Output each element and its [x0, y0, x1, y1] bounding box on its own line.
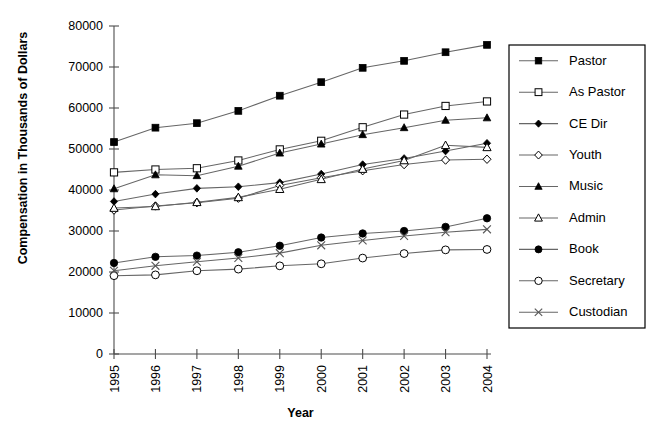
data-point-marker [276, 262, 284, 270]
legend: PastorAs PastorCE DirYouthMusicAdminBook… [509, 45, 645, 328]
y-axis-title: Compensation in Thousands of Dollars [16, 32, 30, 265]
legend-item-label: Music [569, 178, 603, 193]
y-axis-tick-label: 70000 [68, 60, 103, 74]
y-axis-tick-label: 60000 [68, 101, 103, 115]
data-point-marker [442, 156, 450, 164]
series-admin [110, 141, 491, 211]
x-axis-tick-label: 1995 [108, 365, 122, 393]
data-point-marker [193, 185, 200, 193]
x-axis-tick-label: 2003 [439, 365, 453, 393]
data-point-marker [535, 57, 541, 63]
line-chart: 0100002000030000400005000060000700008000… [0, 0, 660, 429]
data-point-marker [442, 102, 449, 109]
legend-item-label: As Pastor [569, 84, 626, 99]
data-point-marker [400, 250, 408, 258]
data-point-marker [535, 246, 542, 253]
data-point-marker [317, 260, 325, 268]
data-point-marker [401, 57, 408, 64]
y-axis-tick-label: 50000 [68, 142, 103, 156]
axes-group: 0100002000030000400005000060000700008000… [16, 19, 495, 420]
data-point-marker [110, 259, 117, 266]
data-point-marker [535, 89, 542, 96]
series-line [114, 145, 487, 208]
x-axis-tick-label: 1998 [232, 365, 246, 393]
y-axis-tick-label: 20000 [68, 265, 103, 279]
data-point-marker [111, 139, 118, 146]
legend-item-label: Youth [569, 147, 602, 162]
series-line [114, 45, 487, 142]
series-group [110, 41, 491, 279]
y-axis-tick-label: 80000 [68, 19, 103, 33]
data-point-marker [152, 271, 160, 279]
legend-item-label: Book [569, 241, 599, 256]
data-point-marker [318, 79, 325, 86]
data-point-marker [152, 253, 159, 260]
data-point-marker [401, 111, 408, 118]
series-pastor [111, 41, 491, 145]
data-point-marker [483, 114, 491, 121]
data-point-marker [276, 242, 283, 249]
data-point-marker [442, 246, 450, 254]
data-point-marker [359, 124, 366, 131]
legend-item-label: Secretary [569, 273, 625, 288]
x-axis-tick-label: 2004 [481, 365, 495, 393]
legend-item-label: CE Dir [569, 116, 608, 131]
legend-item-label: Custodian [569, 304, 628, 319]
data-point-marker [193, 252, 200, 259]
series-book [110, 215, 490, 267]
data-point-marker [483, 246, 491, 254]
y-axis-tick-label: 0 [96, 347, 103, 361]
data-point-marker [193, 165, 200, 172]
data-point-marker [235, 107, 242, 114]
data-point-marker [535, 277, 542, 284]
chart-container: 0100002000030000400005000060000700008000… [0, 0, 660, 429]
data-point-marker [484, 41, 491, 48]
series-as-pastor [110, 98, 490, 176]
data-point-marker [483, 98, 490, 105]
legend-item-label: Pastor [569, 53, 607, 68]
series-line [114, 218, 487, 263]
x-axis-tick-label: 1999 [273, 365, 287, 393]
data-point-marker [442, 49, 449, 56]
data-point-marker [234, 265, 242, 273]
y-axis-tick-label: 10000 [68, 306, 103, 320]
series-line [114, 143, 487, 201]
data-point-marker [235, 183, 242, 191]
legend-item-label: Admin [569, 210, 606, 225]
data-point-marker [276, 92, 283, 99]
series-secretary [110, 246, 491, 280]
data-point-marker [193, 120, 200, 127]
data-point-marker [483, 155, 491, 163]
data-point-marker [359, 64, 366, 71]
data-point-marker [152, 124, 159, 131]
data-point-marker [359, 254, 367, 262]
data-point-marker [318, 234, 325, 241]
x-axis-tick-label: 1997 [190, 365, 204, 393]
data-point-marker [193, 267, 201, 275]
data-point-marker [152, 190, 159, 198]
series-custodian [110, 225, 491, 274]
x-axis-tick-label: 1996 [149, 365, 163, 393]
series-line [114, 249, 487, 275]
x-axis-title: Year [287, 406, 314, 420]
data-point-marker [483, 215, 490, 222]
x-axis-tick-label: 2002 [398, 365, 412, 393]
data-point-marker [359, 230, 366, 237]
data-point-marker [110, 169, 117, 176]
data-point-marker [441, 141, 449, 149]
x-axis-tick-label: 2001 [356, 365, 370, 393]
y-axis-tick-label: 30000 [68, 224, 103, 238]
y-axis-tick-label: 40000 [68, 183, 103, 197]
x-axis-tick-label: 2000 [315, 365, 329, 393]
